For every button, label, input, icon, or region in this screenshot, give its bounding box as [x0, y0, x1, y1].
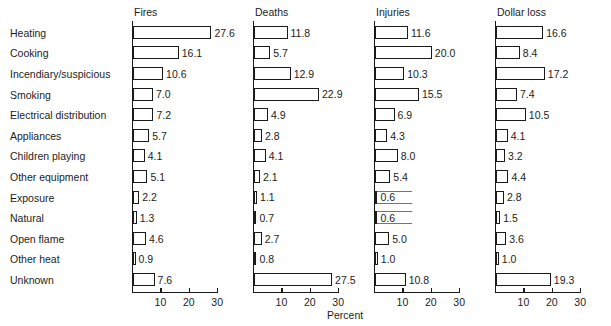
x-axis-tick-label-30: 30 [328, 297, 348, 308]
bar [375, 88, 419, 101]
x-axis-tick-label-10: 10 [513, 297, 533, 308]
bar [254, 129, 262, 142]
value-axis-spine [495, 292, 581, 293]
panel-title: Dollar loss [497, 7, 546, 18]
bar [133, 108, 153, 121]
value-axis-spine [253, 292, 339, 293]
bar [496, 46, 520, 59]
x-axis-tick-label-30: 30 [570, 297, 590, 308]
value-axis-spine [374, 292, 460, 293]
bar [496, 129, 508, 142]
value-axis-spine [132, 292, 218, 293]
bar [375, 191, 377, 204]
bar [375, 46, 432, 59]
bar-value-label: 1.5 [503, 213, 518, 224]
x-axis-tick-label-20: 20 [179, 297, 199, 308]
x-axis-tick-10 [281, 288, 282, 292]
bar [133, 273, 155, 286]
bar-value-label: 4.6 [149, 234, 164, 245]
bar [496, 232, 506, 245]
category-label-unknown: Unknown [10, 275, 54, 286]
bar [375, 149, 398, 162]
bar [133, 67, 163, 80]
x-axis-tick-30 [217, 288, 218, 292]
x-axis-tick-30 [580, 288, 581, 292]
bar-value-label: 2.2 [142, 192, 157, 203]
x-axis-tick-20 [189, 288, 190, 292]
bar-value-label: 19.3 [554, 275, 574, 286]
bar-value-label: 2.8 [507, 192, 522, 203]
x-axis-tick-10 [160, 288, 161, 292]
category-label-incendiary-suspicious: Incendiary/suspicious [10, 69, 110, 80]
x-axis-tick-30 [338, 288, 339, 292]
x-axis-tick-20 [552, 288, 553, 292]
bar-value-label: 10.6 [166, 69, 186, 80]
bar [133, 88, 153, 101]
x-axis-title: Percent [327, 310, 363, 321]
bar-value-label: 3.2 [508, 151, 523, 162]
bar [133, 46, 179, 59]
category-label-natural: Natural [10, 213, 44, 224]
bar [254, 211, 256, 224]
bar-value-label: 1.0 [502, 254, 517, 265]
bar [254, 149, 266, 162]
bar [133, 232, 146, 245]
category-label-children-playing: Children playing [10, 151, 85, 162]
bar-value-label: 10.5 [529, 110, 549, 121]
bar [375, 67, 404, 80]
category-label-cooking: Cooking [10, 48, 49, 59]
bar-value-label: 5.7 [273, 48, 288, 59]
x-axis-tick-label-10: 10 [392, 297, 412, 308]
x-axis-tick-30 [459, 288, 460, 292]
bar-value-label: 7.0 [156, 89, 171, 100]
bar-value-label: 5.1 [150, 172, 165, 183]
bar-value-label: 16.1 [182, 48, 202, 59]
bar [133, 191, 139, 204]
bar-value-label: 10.8 [409, 275, 429, 286]
bar [375, 129, 387, 142]
bar [496, 67, 545, 80]
bar [133, 149, 145, 162]
x-axis-tick-label-20: 20 [300, 297, 320, 308]
bar [496, 88, 517, 101]
bar [496, 108, 526, 121]
bar [133, 211, 137, 224]
x-axis-tick-20 [431, 288, 432, 292]
bar-value-label: 22.9 [322, 89, 342, 100]
x-axis-tick-20 [310, 288, 311, 292]
panel-title: Fires [134, 7, 157, 18]
category-label-other-heat: Other heat [10, 254, 60, 265]
x-axis-tick-label-20: 20 [421, 297, 441, 308]
category-label-electrical-distribution: Electrical distribution [10, 110, 106, 121]
bar-value-label: 1.0 [381, 254, 396, 265]
bar-value-label: 10.3 [407, 69, 427, 80]
bar-value-label: 16.6 [546, 28, 566, 39]
bar-value-label: 4.1 [511, 131, 526, 142]
bar-value-label: 4.3 [390, 131, 405, 142]
bar-value-label: 8.0 [401, 151, 416, 162]
x-axis-tick-label-10: 10 [271, 297, 291, 308]
bar [375, 211, 377, 224]
bar [375, 170, 390, 183]
bar [133, 252, 136, 265]
bar [496, 273, 551, 286]
bar [496, 170, 508, 183]
bar [496, 211, 500, 224]
bar [254, 191, 257, 204]
x-axis-tick-label-10: 10 [150, 297, 170, 308]
bar-value-label: 5.4 [393, 172, 408, 183]
panel-bar-chart: HeatingCookingIncendiary/suspiciousSmoki… [0, 0, 611, 326]
bar-value-label: 4.9 [271, 110, 286, 121]
bar [254, 232, 262, 245]
bar-value-label: 1.3 [140, 213, 155, 224]
bar [496, 26, 543, 39]
bar-value-label: 11.8 [291, 28, 311, 39]
bar-value-label: 2.7 [265, 234, 280, 245]
bar [254, 252, 256, 265]
bar-value-label: 0.6 [380, 192, 395, 203]
bar [254, 26, 288, 39]
bar [133, 129, 149, 142]
bar-value-label: 5.0 [392, 234, 407, 245]
category-label-appliances: Appliances [10, 131, 61, 142]
bar-value-label: 2.1 [263, 172, 278, 183]
